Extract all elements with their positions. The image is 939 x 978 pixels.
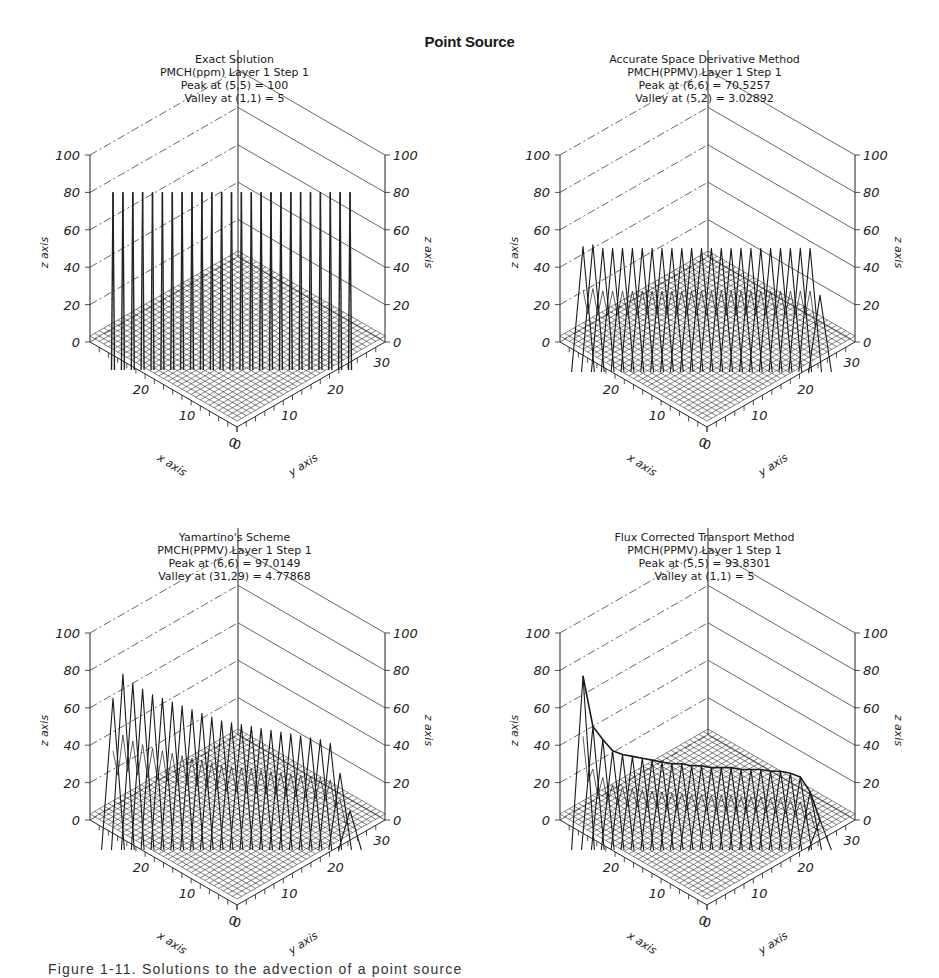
svg-text:20: 20 xyxy=(603,860,620,875)
svg-text:100: 100 xyxy=(525,148,550,163)
svg-text:z axis: z axis xyxy=(38,715,51,748)
plot-panel-accurate-space-derivative: Accurate Space Derivative Method PMCH(PP… xyxy=(470,50,939,500)
svg-text:x axis: x axis xyxy=(624,928,659,957)
svg-text:20: 20 xyxy=(533,298,550,313)
svg-text:80: 80 xyxy=(63,663,80,678)
svg-text:20: 20 xyxy=(797,382,814,397)
svg-text:30: 30 xyxy=(373,833,390,848)
svg-text:0: 0 xyxy=(393,335,401,350)
svg-text:80: 80 xyxy=(393,663,410,678)
svg-text:y axis: y axis xyxy=(285,451,320,480)
svg-text:0: 0 xyxy=(72,335,80,350)
svg-text:30: 30 xyxy=(373,355,390,370)
svg-text:80: 80 xyxy=(863,185,880,200)
svg-text:0: 0 xyxy=(233,915,241,930)
surface-plot: 002020404060608080100100z axisz axis0102… xyxy=(470,50,939,500)
svg-text:10: 10 xyxy=(179,408,196,423)
svg-text:20: 20 xyxy=(63,298,80,313)
svg-text:10: 10 xyxy=(281,886,298,901)
svg-text:40: 40 xyxy=(863,260,880,275)
svg-text:80: 80 xyxy=(393,185,410,200)
plot-panel-yamartino-scheme: Yamartino's Scheme PMCH(PPMV) Layer 1 St… xyxy=(0,528,469,978)
svg-text:0: 0 xyxy=(542,335,550,350)
svg-text:20: 20 xyxy=(863,298,880,313)
svg-text:0: 0 xyxy=(393,813,401,828)
svg-text:z axis: z axis xyxy=(422,714,435,747)
svg-text:60: 60 xyxy=(393,223,410,238)
svg-text:40: 40 xyxy=(533,260,550,275)
svg-text:z axis: z axis xyxy=(38,237,51,270)
svg-text:z axis: z axis xyxy=(892,236,905,269)
svg-text:80: 80 xyxy=(863,663,880,678)
surface-plot: 002020404060608080100100z axisz axis0102… xyxy=(0,528,469,978)
svg-text:60: 60 xyxy=(393,701,410,716)
svg-text:60: 60 xyxy=(63,223,80,238)
svg-text:10: 10 xyxy=(751,408,768,423)
svg-text:y axis: y axis xyxy=(285,929,320,958)
svg-text:60: 60 xyxy=(863,223,880,238)
surface-plot: 002020404060608080100100z axisz axis0102… xyxy=(0,50,469,500)
svg-text:x axis: x axis xyxy=(154,450,189,479)
figure-title: Point Source xyxy=(0,33,939,50)
svg-text:60: 60 xyxy=(863,701,880,716)
surface-wireframe xyxy=(572,676,832,850)
svg-text:0: 0 xyxy=(72,813,80,828)
svg-text:10: 10 xyxy=(179,886,196,901)
svg-text:z axis: z axis xyxy=(422,236,435,269)
svg-text:40: 40 xyxy=(63,260,80,275)
svg-text:100: 100 xyxy=(55,148,80,163)
svg-text:10: 10 xyxy=(649,886,666,901)
svg-text:20: 20 xyxy=(133,382,150,397)
svg-text:y axis: y axis xyxy=(755,451,790,480)
svg-text:80: 80 xyxy=(533,663,550,678)
svg-text:20: 20 xyxy=(327,382,344,397)
svg-text:20: 20 xyxy=(863,776,880,791)
svg-text:60: 60 xyxy=(63,701,80,716)
svg-text:100: 100 xyxy=(393,626,418,641)
svg-text:0: 0 xyxy=(233,437,241,452)
plot-panel-exact-solution: Exact Solution PMCH(ppm) Layer 1 Step 1 … xyxy=(0,50,469,500)
svg-text:20: 20 xyxy=(133,860,150,875)
svg-text:y axis: y axis xyxy=(755,929,790,958)
svg-text:30: 30 xyxy=(843,833,860,848)
svg-text:20: 20 xyxy=(393,776,410,791)
svg-text:100: 100 xyxy=(55,626,80,641)
svg-text:x axis: x axis xyxy=(624,450,659,479)
svg-text:0: 0 xyxy=(703,915,711,930)
svg-text:z axis: z axis xyxy=(508,237,521,270)
svg-text:0: 0 xyxy=(703,437,711,452)
figure-caption: Figure 1-11. Solutions to the advection … xyxy=(48,961,928,977)
svg-text:40: 40 xyxy=(863,738,880,753)
svg-text:40: 40 xyxy=(393,260,410,275)
svg-text:z axis: z axis xyxy=(508,715,521,748)
svg-text:40: 40 xyxy=(393,738,410,753)
svg-text:100: 100 xyxy=(525,626,550,641)
svg-text:100: 100 xyxy=(863,148,888,163)
svg-text:10: 10 xyxy=(751,886,768,901)
svg-text:60: 60 xyxy=(533,223,550,238)
svg-text:60: 60 xyxy=(533,701,550,716)
svg-text:20: 20 xyxy=(797,860,814,875)
svg-text:20: 20 xyxy=(533,776,550,791)
svg-text:20: 20 xyxy=(393,298,410,313)
svg-text:100: 100 xyxy=(393,148,418,163)
svg-text:0: 0 xyxy=(863,813,871,828)
svg-text:30: 30 xyxy=(843,355,860,370)
svg-text:20: 20 xyxy=(63,776,80,791)
plot-panel-flux-corrected-transport: Flux Corrected Transport Method PMCH(PPM… xyxy=(470,528,939,978)
svg-text:40: 40 xyxy=(63,738,80,753)
svg-text:80: 80 xyxy=(63,185,80,200)
svg-text:20: 20 xyxy=(603,382,620,397)
svg-text:0: 0 xyxy=(863,335,871,350)
svg-text:0: 0 xyxy=(542,813,550,828)
svg-text:10: 10 xyxy=(281,408,298,423)
surface-plot: 002020404060608080100100z axisz axis0102… xyxy=(470,528,939,978)
svg-text:80: 80 xyxy=(533,185,550,200)
svg-text:100: 100 xyxy=(863,626,888,641)
svg-text:20: 20 xyxy=(327,860,344,875)
svg-text:z axis: z axis xyxy=(892,714,905,747)
svg-text:40: 40 xyxy=(533,738,550,753)
svg-text:x axis: x axis xyxy=(154,928,189,957)
svg-text:10: 10 xyxy=(649,408,666,423)
